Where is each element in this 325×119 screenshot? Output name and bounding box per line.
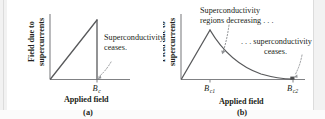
panel-a-y-axis-label-line2: supercurrents [37, 18, 46, 66]
panel-a-letter: (a) [83, 108, 93, 117]
panel-a-xtick-label-subscript: c [98, 88, 101, 94]
panel-a-annotation-line2: ceases. [104, 43, 127, 52]
left-page-rule [3, 0, 4, 119]
right-page-edge-strip [313, 0, 325, 119]
panel-b-leader-line-2 [295, 55, 302, 75]
panel-b-leader-line-1 [223, 25, 229, 52]
panel-a-y-axis-label-line1: Field due to [27, 21, 36, 62]
panel-b-annotation2-line2: ceases. [264, 47, 287, 56]
panel-b-annotation1-line1: Superconductivity [200, 6, 261, 15]
panel-b-xtick2-label-symbol: B [287, 84, 292, 93]
panel-a-x-axis-label: Applied field [64, 95, 109, 104]
panel-b-y-axis-label-line1: Field due to [163, 21, 167, 62]
panel-a: Field due to supercurrents Superconducti… [8, 0, 163, 119]
panel-b: Field due to supercurrents Superconducti… [163, 0, 313, 119]
panel-b-curve-rise [182, 30, 211, 79]
panel-b-annotation2-line1: . . . superconductivity [241, 37, 313, 46]
panel-b-xtick1-label-symbol: B [204, 84, 209, 93]
panel-b-xtick2-label-subscript: c2 [293, 88, 299, 94]
panel-b-annotation1-line2: regions decreasing . . . [200, 16, 273, 25]
right-page-rule [313, 0, 314, 119]
panel-a-annotation-line1: Superconductivity [104, 33, 163, 42]
panel-a-curve-rise [51, 20, 98, 79]
panel-b-xtick1-label-subscript: c1 [210, 88, 216, 94]
panel-b-x-axis-label: Applied field [219, 97, 264, 106]
panel-a-xtick-label-symbol: B [93, 84, 98, 93]
figure-root: Field due to supercurrents Superconducti… [0, 0, 325, 119]
panel-b-y-axis-label-line2: supercurrents [168, 18, 177, 66]
panel-a-leader-line [99, 62, 112, 77]
panel-b-letter: (b) [237, 108, 247, 117]
